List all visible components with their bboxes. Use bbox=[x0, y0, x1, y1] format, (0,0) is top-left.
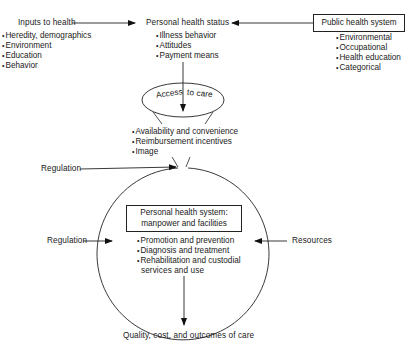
outcome-label: Quality, cost, and outcomes of care bbox=[123, 331, 254, 341]
list-item: Occupational bbox=[336, 43, 401, 53]
personal-health-system-list: Promotion and prevention Diagnosis and t… bbox=[137, 236, 241, 266]
list-item: Heredity, demographics bbox=[2, 31, 91, 41]
personal-health-system-title-1: Personal health system: bbox=[127, 207, 241, 218]
public-health-system-box: Public health system bbox=[313, 14, 405, 32]
list-item: Categorical bbox=[336, 63, 401, 73]
personal-health-status-title: Personal health status bbox=[146, 18, 229, 28]
list-item: Illness behavior bbox=[156, 31, 219, 41]
list-item: Environmental bbox=[336, 33, 401, 43]
list-item: Health education bbox=[336, 53, 401, 63]
list-item: Image bbox=[132, 147, 238, 157]
list-item: Rehabilitation and custodial bbox=[137, 256, 241, 266]
list-item: Behavior bbox=[2, 61, 91, 71]
list-item: Promotion and prevention bbox=[137, 236, 241, 246]
resources-label: Resources bbox=[292, 236, 332, 246]
access-to-care-list: Availability and convenience Reimburseme… bbox=[132, 127, 238, 157]
list-item: Education bbox=[2, 51, 91, 61]
list-item: Attitudes bbox=[156, 41, 219, 51]
list-item: Reimbursement incentives bbox=[132, 137, 238, 147]
regulation-left-label: Regulation bbox=[47, 236, 87, 246]
personal-health-system-title-2: manpower and facilities bbox=[127, 218, 241, 229]
list-item: Environment bbox=[2, 41, 91, 51]
public-health-system-title: Public health system bbox=[321, 18, 396, 27]
list-item: Diagnosis and treatment bbox=[137, 246, 241, 256]
inputs-to-health-title: Inputs to health bbox=[18, 18, 76, 28]
personal-health-system-box: Personal health system: manpower and fac… bbox=[126, 205, 242, 232]
list-item: Availability and convenience bbox=[132, 127, 238, 137]
arrow-regulation-top bbox=[80, 167, 176, 169]
public-health-system-list: Environmental Occupational Health educat… bbox=[336, 33, 401, 73]
personal-health-system-continuation: services and use bbox=[141, 266, 204, 276]
list-item: Payment means bbox=[156, 51, 219, 61]
regulation-top-label: Regulation bbox=[41, 164, 81, 174]
personal-health-status-list: Illness behavior Attitudes Payment means bbox=[156, 31, 219, 61]
inputs-to-health-list: Heredity, demographics Environment Educa… bbox=[2, 31, 91, 71]
